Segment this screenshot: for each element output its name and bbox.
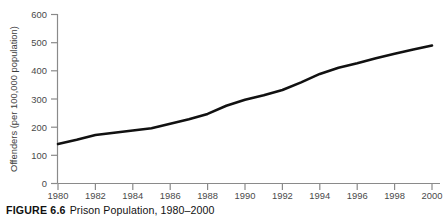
y-tick-label: 300 (31, 94, 47, 105)
x-tick-label: 1992 (272, 190, 293, 200)
x-tick-label: 1990 (235, 190, 256, 200)
x-tick-label: 1994 (309, 190, 330, 200)
figure-caption: FIGURE 6.6Prison Population, 1980–2000 (6, 203, 436, 219)
figure-container: 600 500 400 300 200 100 0 (0, 0, 445, 221)
y-axis-title: Offenders (per 100,000 population) (8, 26, 19, 172)
y-tick-label: 200 (31, 122, 47, 133)
y-tick-label: 500 (31, 37, 47, 48)
x-axis-tick-labels: 1980 1982 1984 1986 1988 1990 1992 1994 … (48, 190, 443, 200)
x-tick-label: 1980 (48, 190, 69, 200)
y-tick-label: 0 (42, 178, 47, 189)
x-tick-label: 1982 (85, 190, 106, 200)
y-tick-label: 400 (31, 65, 47, 76)
data-series-line (58, 45, 432, 144)
chart-plot-area: 600 500 400 300 200 100 0 (0, 0, 445, 200)
y-axis-tick-labels: 600 500 400 300 200 100 0 (31, 9, 47, 189)
x-tick-label: 1986 (160, 190, 181, 200)
line-chart: 600 500 400 300 200 100 0 (0, 0, 445, 200)
y-tick-label: 100 (31, 150, 47, 161)
figure-title: Prison Population, 1980–2000 (70, 204, 215, 216)
y-tick-label: 600 (31, 9, 47, 20)
x-tick-label: 1988 (197, 190, 218, 200)
x-tick-label: 1998 (384, 190, 405, 200)
figure-number: FIGURE 6.6 (6, 204, 66, 216)
x-tick-label: 2000 (422, 190, 443, 200)
x-tick-label: 1996 (347, 190, 368, 200)
y-axis-ticks (51, 15, 58, 184)
x-tick-label: 1984 (122, 190, 143, 200)
